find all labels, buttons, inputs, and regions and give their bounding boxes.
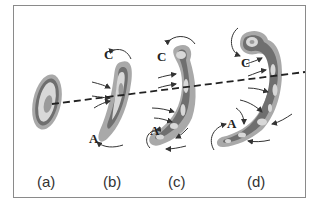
- echo-a: [27, 72, 66, 133]
- marker-c-d: C: [241, 55, 250, 70]
- marker-a-c: A: [150, 123, 160, 138]
- marker-a-b: A: [89, 131, 99, 146]
- echo-c: C A: [147, 37, 196, 149]
- marker-a-d: A: [227, 116, 237, 131]
- echo-d: C A: [211, 28, 292, 150]
- panel-label-d: (d): [247, 173, 265, 190]
- panel-label-a: (a): [37, 173, 55, 190]
- marker-c-b: C: [104, 47, 113, 62]
- marker-c-c: C: [157, 49, 166, 64]
- panel-label-b: (b): [103, 173, 121, 190]
- panel-label-c: (c): [168, 173, 186, 190]
